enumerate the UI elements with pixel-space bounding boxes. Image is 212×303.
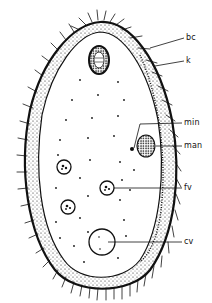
label-cv: cv (184, 238, 194, 246)
label-k: k (186, 57, 191, 65)
label-fv: fv (184, 184, 192, 192)
ciliate-diagram (0, 0, 212, 303)
micronucleus (130, 147, 134, 151)
macronucleus (137, 135, 155, 157)
label-man: man (184, 142, 202, 150)
label-bc: bc (186, 34, 196, 42)
label-min: min (184, 119, 200, 127)
buccal-cavity (89, 46, 109, 74)
